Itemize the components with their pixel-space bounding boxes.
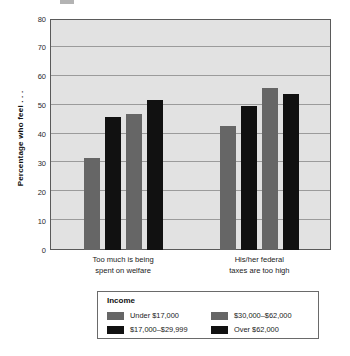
legend-title: Income	[107, 296, 135, 305]
gridline	[51, 104, 330, 105]
y-axis-tick-label: 10	[22, 218, 46, 226]
plot-area	[50, 19, 331, 250]
legend-entry-label: $17,000–$29,999	[130, 325, 188, 334]
x-axis-category-label: Too much is beingspent on welfare	[58, 254, 188, 276]
legend-entry-label: $30,000–$62,000	[234, 311, 292, 320]
legend-entry: $17,000–$29,999	[107, 325, 188, 334]
y-axis-tick-label: 30	[22, 160, 46, 168]
category-label-line: Too much is being	[58, 254, 188, 265]
legend-entry-label: Over $62,000	[234, 325, 279, 334]
gridline	[51, 133, 330, 134]
category-label-line: taxes are too high	[194, 265, 324, 276]
legend-swatch	[107, 312, 124, 320]
y-axis-tick-label: 20	[22, 189, 46, 197]
legend-entry: $30,000–$62,000	[211, 311, 292, 320]
y-axis-tick-label: 40	[22, 131, 46, 139]
category-label-line: spent on welfare	[58, 265, 188, 276]
x-axis-category-label: His/her federaltaxes are too high	[194, 254, 324, 276]
cropped-title-artifact	[60, 0, 74, 4]
y-axis-tick-label: 60	[22, 73, 46, 81]
y-axis-tick-label: 50	[22, 102, 46, 110]
legend-entry: Over $62,000	[211, 325, 279, 334]
legend-entry-label: Under $17,000	[130, 311, 179, 320]
legend: Income Under $17,000$30,000–$62,000$17,0…	[97, 291, 319, 339]
category-label-line: His/her federal	[194, 254, 324, 265]
y-axis-tick-label: 80	[22, 16, 46, 24]
y-axis-tick-labels: 01020304050607080	[22, 19, 46, 250]
legend-swatch	[211, 326, 228, 334]
gridline	[51, 190, 330, 191]
legend-entry: Under $17,000	[107, 311, 179, 320]
gridline	[51, 75, 330, 76]
y-axis-tick-label: 0	[22, 247, 46, 255]
gridline	[51, 161, 330, 162]
gridline	[51, 46, 330, 47]
legend-swatch	[107, 326, 124, 334]
legend-swatch	[211, 312, 228, 320]
chart-figure: Percentage who feel . . . 01020304050607…	[0, 0, 350, 356]
y-axis-tick-label: 70	[22, 44, 46, 52]
gridline	[51, 219, 330, 220]
x-axis-category-labels: Too much is beingspent on welfareHis/her…	[50, 254, 331, 284]
